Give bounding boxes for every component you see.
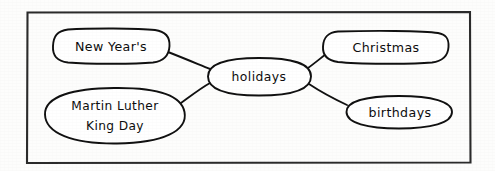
node-mlk-day-label-line1: Martin Luther <box>71 99 159 113</box>
concept-map-canvas: New Year's Martin Luther King Day holida… <box>0 0 495 171</box>
connector-holidays-new-years <box>168 52 210 69</box>
node-birthdays-label: birthdays <box>369 105 432 120</box>
node-holidays-label: holidays <box>232 69 287 84</box>
node-new-years-label: New Year's <box>75 39 147 54</box>
concept-map-svg: New Year's Martin Luther King Day holida… <box>0 0 495 171</box>
node-mlk-day-shape[interactable] <box>45 88 185 144</box>
node-christmas-label: Christmas <box>352 40 419 55</box>
node-mlk-day-label-line2: King Day <box>86 119 144 133</box>
connector-holidays-birthdays <box>309 84 347 105</box>
connector-holidays-mlk-day <box>181 83 210 103</box>
